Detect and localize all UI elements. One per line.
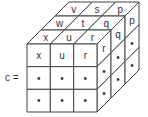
cube-3x3x3: vspwtqxurrqp••••••xur•••••• xyxy=(0,0,148,117)
right-cell-label: • xyxy=(116,52,120,63)
front-cell-label: • xyxy=(84,95,88,106)
right-cell-label: • xyxy=(102,66,106,77)
right-cell-label: • xyxy=(116,74,120,85)
front-cell-label: u xyxy=(59,50,65,61)
front-cell-label: • xyxy=(60,73,64,84)
top-cell-label: t xyxy=(82,18,85,29)
right-cell-label: q xyxy=(115,29,121,40)
right-cell-label: p xyxy=(129,15,135,26)
top-cell-label: u xyxy=(66,32,72,43)
right-cell-label: • xyxy=(130,38,134,49)
top-cell-label: s xyxy=(95,4,100,15)
front-cell-label: • xyxy=(37,73,41,84)
front-cell-label: x xyxy=(36,50,41,61)
front-cell-label: • xyxy=(84,73,88,84)
top-cell-label: w xyxy=(55,18,64,29)
top-cell-label: x xyxy=(43,32,48,43)
right-cell-label: • xyxy=(130,60,134,71)
front-cell-label: • xyxy=(60,95,64,106)
right-cell-label: • xyxy=(102,88,106,99)
top-cell-label: p xyxy=(118,4,124,15)
top-cell-label: q xyxy=(104,18,110,29)
top-cell-label: v xyxy=(71,4,76,15)
front-cell-label: • xyxy=(37,95,41,106)
